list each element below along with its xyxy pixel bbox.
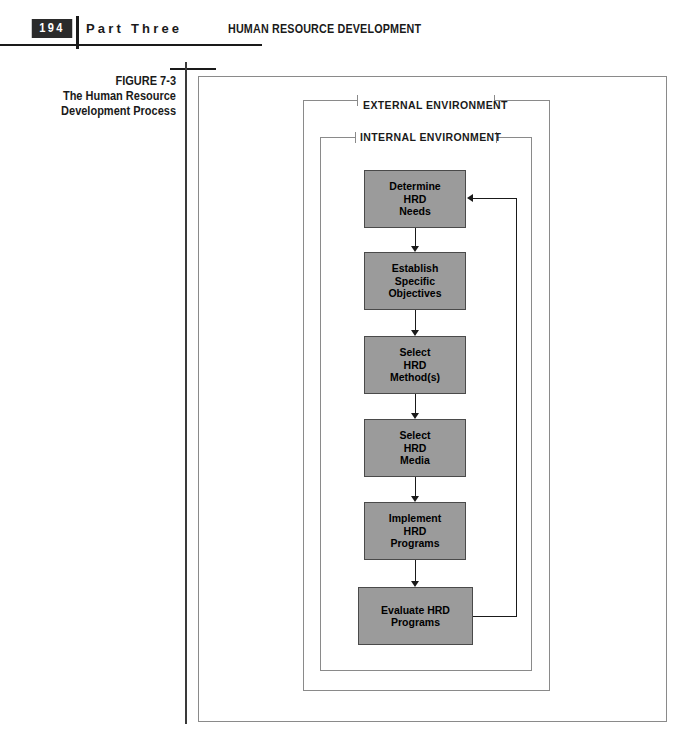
header-rule [0,44,262,46]
part-label: Part Three [86,19,182,38]
external-environment-border-right [549,100,550,690]
arrow-left-icon [467,194,473,202]
arrow-down-icon [411,581,419,587]
feedback-connector-top [473,198,517,199]
external-environment-border-bottom [303,690,550,691]
caption-vertical-rule [185,62,187,724]
arrow-down-icon [411,330,419,336]
caption-horizontal-rule [170,68,216,70]
internal-environment-tick-left [355,132,356,143]
process-box-establish-specific-objectives: Establish Specific Objectives [364,252,466,310]
process-box-select-hrd-methods: Select HRD Method(s) [364,336,466,394]
internal-environment-border-left [320,137,321,670]
external-environment-border-top-left [303,100,358,101]
internal-environment-label: INTERNAL ENVIRONMENT [360,131,501,143]
chapter-title: HUMAN RESOURCE DEVELOPMENT [228,20,421,38]
connector-determine-to-establish [415,228,416,246]
arrow-down-icon [411,246,419,252]
arrow-down-icon [411,496,419,502]
figure-title: The Human Resource Development Process [21,89,176,119]
feedback-connector-bottom [473,616,517,617]
connector-media-to-implement [415,477,416,496]
connector-establish-to-method [415,310,416,330]
page-header: 194 Part Three HUMAN RESOURCE DEVELOPMEN… [0,0,688,56]
process-box-select-hrd-media: Select HRD Media [364,419,466,477]
page-number: 194 [32,19,72,38]
process-box-determine-hrd-needs: Determine HRD Needs [364,170,466,228]
feedback-connector-vertical [516,198,517,617]
external-environment-label: EXTERNAL ENVIRONMENT [363,99,508,111]
connector-implement-to-evaluate [415,560,416,581]
process-box-evaluate-hrd-programs: Evaluate HRD Programs [358,587,473,645]
external-environment-tick-left [357,95,358,106]
internal-environment-border-bottom [320,670,532,671]
internal-environment-border-top-left [320,137,356,138]
figure-number: FIGURE 7-3 [21,74,176,89]
external-environment-border-left [303,100,304,690]
arrow-down-icon [411,413,419,419]
internal-environment-border-right [531,137,532,670]
figure-caption: FIGURE 7-3 The Human Resource Developmen… [21,74,176,119]
process-box-implement-hrd-programs: Implement HRD Programs [364,502,466,560]
connector-method-to-media [415,394,416,413]
